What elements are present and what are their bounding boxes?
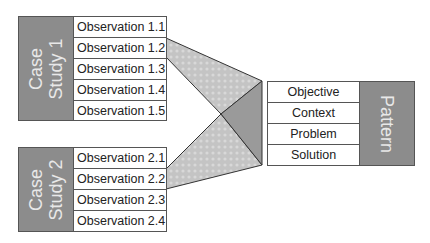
observation-1-4: Observation 1.4 — [74, 80, 166, 101]
case-study-1-observations: Observation 1.1 Observation 1.2 Observat… — [73, 16, 167, 121]
case-study-2-observations: Observation 2.1 Observation 2.2 Observat… — [73, 147, 167, 232]
observation-1-1: Observation 1.1 — [74, 17, 166, 38]
observation-2-1: Observation 2.1 — [74, 148, 166, 169]
case-study-1-label: Case Study 1 — [26, 38, 66, 99]
case-study-1-block: Case Study 1 — [18, 16, 74, 121]
observation-1-2: Observation 1.2 — [74, 38, 166, 59]
pattern-field-solution: Solution — [268, 145, 359, 166]
observation-1-3: Observation 1.3 — [74, 59, 166, 80]
pattern-block: Pattern — [359, 81, 415, 166]
pattern-field-context: Context — [268, 103, 359, 124]
observation-1-5: Observation 1.5 — [74, 101, 166, 122]
pattern-label: Pattern — [377, 94, 397, 152]
pattern-fields: Objective Context Problem Solution — [267, 81, 360, 166]
observation-2-3: Observation 2.3 — [74, 190, 166, 211]
observation-2-2: Observation 2.2 — [74, 169, 166, 190]
case-study-2-block: Case Study 2 — [18, 147, 74, 232]
pattern-field-objective: Objective — [268, 82, 359, 103]
observation-2-4: Observation 2.4 — [74, 211, 166, 232]
case-study-2-label: Case Study 2 — [26, 159, 66, 220]
pattern-field-problem: Problem — [268, 124, 359, 145]
